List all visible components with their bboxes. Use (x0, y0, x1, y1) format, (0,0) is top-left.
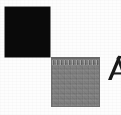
gray-square-top-speckle (52, 60, 99, 65)
black-square (5, 7, 50, 57)
clipped-letter-a-icon (106, 55, 121, 81)
figure-canvas (0, 0, 121, 115)
gray-square-texture (52, 59, 99, 106)
gray-square (51, 57, 100, 107)
